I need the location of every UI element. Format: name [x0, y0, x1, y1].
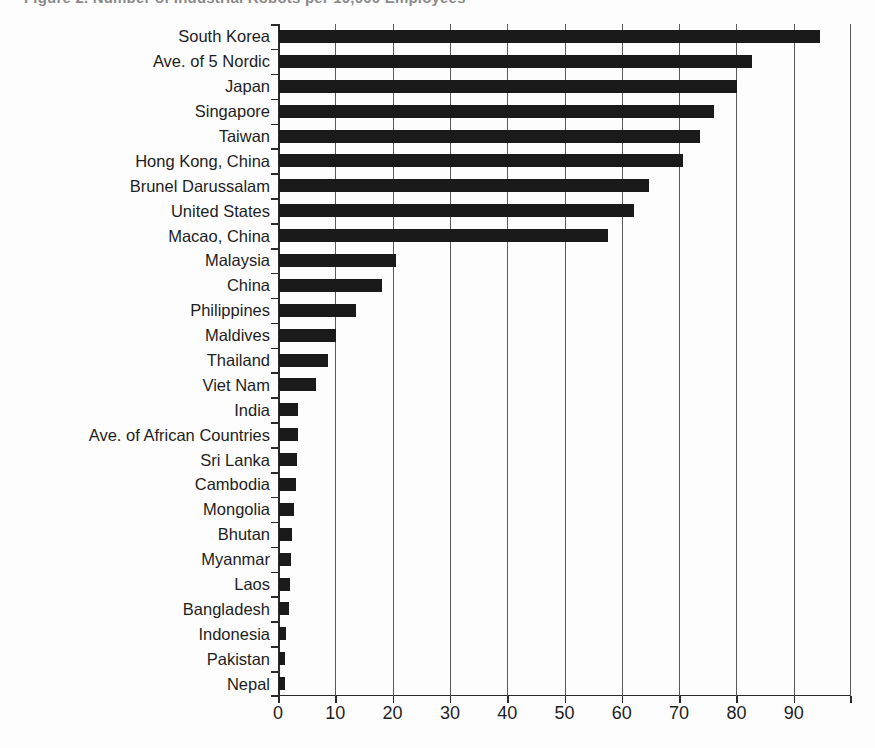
y-tick [271, 24, 278, 26]
y-tick [271, 547, 278, 549]
y-tick [271, 522, 278, 524]
y-axis-category-label: Mongolia [203, 501, 270, 518]
x-axis-tick-label: 90 [784, 704, 804, 722]
y-tick [271, 596, 278, 598]
x-axis-tick-label: 0 [273, 704, 283, 722]
y-axis-category-label: Ave. of African Countries [89, 427, 270, 444]
y-tick [271, 74, 278, 76]
y-tick [271, 348, 278, 350]
y-tick [271, 323, 278, 325]
y-tick [271, 173, 278, 175]
gridline-30 [450, 24, 451, 696]
x-tick-90 [794, 696, 796, 703]
x-axis-tick-label: 60 [612, 704, 632, 722]
bar [279, 378, 316, 391]
x-tick-50 [565, 696, 567, 703]
bar-chart: South KoreaAve. of 5 NordicJapanSingapor… [0, 0, 875, 748]
x-axis-tick-label: 10 [325, 704, 345, 722]
bar [279, 179, 649, 192]
bar [279, 428, 298, 441]
x-tick-20 [393, 696, 395, 703]
y-tick [271, 472, 278, 474]
y-tick [271, 273, 278, 275]
gridline-90 [794, 24, 795, 696]
y-tick [271, 49, 278, 51]
y-tick [271, 572, 278, 574]
bar [279, 55, 752, 68]
y-tick [271, 372, 278, 374]
gridline-20 [393, 24, 394, 696]
x-axis-tick-label: 50 [554, 704, 574, 722]
y-tick [271, 447, 278, 449]
bar [279, 403, 298, 416]
x-axis-tick-label: 80 [726, 704, 746, 722]
y-tick [271, 397, 278, 399]
gridline-40 [507, 24, 508, 696]
y-tick [271, 223, 278, 225]
bar [279, 229, 608, 242]
y-axis-category-label: Singapore [195, 103, 270, 120]
bar [279, 204, 634, 217]
x-tick-10 [335, 696, 337, 703]
x-tick-40 [507, 696, 509, 703]
y-axis-category-label: China [227, 277, 270, 294]
x-tick-80 [736, 696, 738, 703]
y-axis-category-label: Pakistan [207, 651, 270, 668]
gridline-80 [736, 24, 737, 696]
bar [279, 677, 285, 690]
x-axis-tick-label: 70 [669, 704, 689, 722]
bar [279, 30, 820, 43]
bar [279, 528, 292, 541]
bar [279, 279, 382, 292]
y-axis-category-label: Taiwan [219, 128, 270, 145]
y-axis-category-label: Cambodia [195, 476, 270, 493]
y-tick [271, 298, 278, 300]
y-axis-category-label: Malaysia [205, 252, 270, 269]
gridline-60 [622, 24, 623, 696]
x-tick-60 [622, 696, 624, 703]
x-tick-70 [679, 696, 681, 703]
y-axis-category-label: Hong Kong, China [135, 153, 270, 170]
bar [279, 478, 296, 491]
bar [279, 304, 356, 317]
y-axis-category-label: Philippines [190, 302, 270, 319]
y-axis-category-label: United States [171, 203, 270, 220]
y-tick [271, 621, 278, 623]
y-axis-category-label: Ave. of 5 Nordic [153, 53, 270, 70]
x-axis-tick-label: 40 [497, 704, 517, 722]
y-axis-category-label: Viet Nam [202, 377, 270, 394]
x-tick-30 [450, 696, 452, 703]
bar [279, 627, 286, 640]
y-axis-category-label: India [234, 402, 270, 419]
y-axis-category-label: Thailand [207, 352, 270, 369]
bar [279, 602, 289, 615]
bar [279, 329, 336, 342]
y-axis-category-label: Bangladesh [183, 601, 270, 618]
bar [279, 354, 328, 367]
y-axis-category-label: Macao, China [168, 228, 270, 245]
y-tick [271, 422, 278, 424]
y-axis-labels: South KoreaAve. of 5 NordicJapanSingapor… [0, 24, 270, 696]
bar [279, 130, 700, 143]
y-axis-category-label: Sri Lanka [200, 452, 270, 469]
y-tick [271, 198, 278, 200]
y-tick [271, 497, 278, 499]
bar [279, 652, 285, 665]
bar [279, 105, 714, 118]
bar [279, 453, 297, 466]
bar [279, 503, 294, 516]
y-axis-category-label: Japan [225, 78, 270, 95]
gridline-50 [565, 24, 566, 696]
y-tick [271, 695, 278, 697]
y-axis-category-label: Bhutan [218, 526, 270, 543]
gridline-10 [335, 24, 336, 696]
gridline-70 [679, 24, 680, 696]
bar [279, 80, 737, 93]
plot-area [278, 24, 851, 696]
y-axis-category-label: Laos [234, 576, 270, 593]
bar [279, 154, 683, 167]
y-axis-category-label: Maldives [205, 327, 270, 344]
y-tick [271, 248, 278, 250]
y-tick [271, 646, 278, 648]
y-axis-category-label: Nepal [227, 676, 270, 693]
